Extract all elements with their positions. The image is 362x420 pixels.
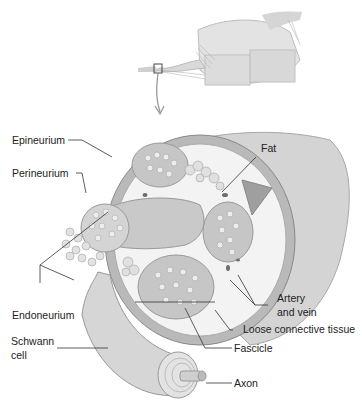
label-fascicle: Fascicle	[234, 342, 273, 354]
label-schwann-cell-line2: cell	[11, 349, 27, 361]
label-fat: Fat	[261, 142, 276, 154]
label-loose-connective-tissue: Loose connective tissue	[243, 323, 355, 335]
label-perineurium: Perineurium	[12, 167, 69, 179]
label-artery-line2: and vein	[277, 306, 317, 318]
label-artery-line1: Artery	[277, 292, 305, 304]
label-epineurium: Epineurium	[12, 134, 65, 146]
label-endoneurium: Endoneurium	[12, 309, 74, 321]
spinal-cord-inset	[138, 12, 302, 114]
label-schwann-cell-line1: Schwann	[11, 335, 54, 347]
label-axon: Axon	[234, 377, 258, 389]
zoom-arrow	[157, 73, 160, 112]
nerve-illustration	[0, 0, 362, 420]
